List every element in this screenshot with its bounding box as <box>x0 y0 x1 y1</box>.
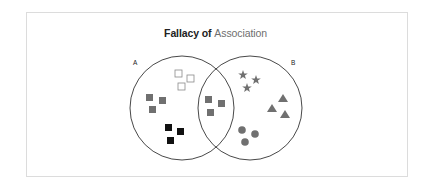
gray-squares-overlap-group <box>205 96 225 116</box>
star-icon <box>251 75 261 84</box>
black-square-icon <box>165 124 172 131</box>
dot-icon <box>241 138 249 146</box>
outline-square-icon <box>175 70 182 77</box>
gray-square-icon <box>149 106 156 113</box>
set-a-label: A <box>133 59 138 66</box>
dots-group <box>238 126 259 146</box>
stars-group <box>238 70 261 92</box>
triangle-icon <box>280 110 290 118</box>
venn-diagram: A B <box>0 0 431 189</box>
gray-square-icon <box>205 96 212 103</box>
triangle-icon <box>267 104 277 112</box>
gray-square-icon <box>159 97 166 104</box>
dot-icon <box>238 126 246 134</box>
black-squares-group <box>165 124 184 144</box>
star-icon <box>238 70 248 79</box>
outline-square-icon <box>187 75 194 82</box>
outline-squares-group <box>175 70 194 90</box>
triangles-group <box>267 94 290 118</box>
outline-square-icon <box>178 83 185 90</box>
gray-square-icon <box>207 109 214 116</box>
black-square-icon <box>177 128 184 135</box>
gray-square-icon <box>146 94 153 101</box>
gray-square-icon <box>218 100 225 107</box>
black-square-icon <box>167 137 174 144</box>
set-b-circle <box>198 56 302 160</box>
set-b-label: B <box>291 59 295 66</box>
dot-icon <box>251 130 259 138</box>
triangle-icon <box>278 94 288 102</box>
star-icon <box>242 83 252 92</box>
gray-squares-a-group <box>146 94 166 113</box>
